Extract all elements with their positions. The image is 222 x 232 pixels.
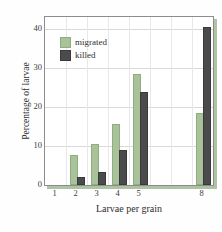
x-tick-4: 4 [108, 188, 128, 198]
y-tick-40: 40 [20, 23, 42, 33]
x-tick-1: 1 [45, 188, 65, 198]
y-axis-tick-labels: 010203040 [18, 16, 42, 186]
y-tick-30: 30 [20, 62, 42, 72]
x-tick-8: 8 [192, 188, 212, 198]
legend-item-killed: killed [60, 50, 107, 61]
legend-item-migrated: migrated [60, 37, 107, 48]
x-tick-2: 2 [66, 188, 86, 198]
figure: Percentage of larvae 010203040 123458 La… [0, 0, 222, 232]
bar-killed-2 [77, 177, 85, 185]
legend-swatch-migrated [60, 37, 71, 48]
bar-killed-4 [119, 150, 127, 185]
x-tick-3: 3 [87, 188, 107, 198]
x-axis-label: Larvae per grain [44, 203, 214, 214]
legend-label-migrated: migrated [75, 37, 107, 48]
y-tick-0: 0 [20, 179, 42, 189]
bar-killed-8 [203, 27, 211, 185]
figure-caption [0, 220, 222, 232]
x-axis-tick-labels: 123458 [44, 188, 214, 202]
legend-swatch-killed [60, 50, 71, 61]
gridline-y-0 [45, 185, 213, 186]
x-tick-5: 5 [129, 188, 149, 198]
legend: migrated killed [60, 37, 107, 63]
y-tick-10: 10 [20, 140, 42, 150]
bar-killed-3 [98, 172, 106, 185]
y-tick-20: 20 [20, 101, 42, 111]
bar-killed-5 [140, 92, 148, 185]
legend-label-killed: killed [75, 50, 96, 61]
